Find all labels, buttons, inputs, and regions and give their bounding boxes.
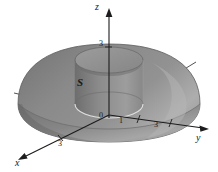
z-axis-arrowhead — [106, 8, 113, 17]
z-axis-tick-label-3: 3 — [99, 40, 103, 48]
surface-region-label: S — [77, 77, 83, 88]
y-axis-arrowhead — [200, 126, 210, 132]
figure-3d-surface-plot: z 3 S 0 1 3 y 3 x — [0, 0, 218, 172]
x-axis-label: x — [15, 158, 19, 168]
y-axis-tick-label-1: 1 — [119, 117, 123, 125]
y-axis-tick-label-3: 3 — [154, 121, 158, 129]
x-axis-tick-label-3: 3 — [58, 140, 62, 148]
z-axis-label: z — [95, 2, 99, 12]
y-axis-label: y — [196, 133, 200, 143]
surface-plot-canvas — [0, 0, 218, 172]
origin-label: 0 — [99, 112, 103, 120]
